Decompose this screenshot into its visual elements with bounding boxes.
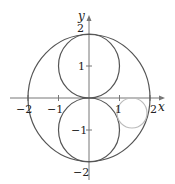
y-tick-label: −2 (73, 166, 89, 179)
x-tick-label: 1 (115, 103, 122, 116)
y-tick-label: −1 (71, 124, 87, 137)
x-tick-label: −2 (16, 103, 32, 116)
diagram-canvas: −2 −1 1 2 2 1 −1 −2 x y (0, 0, 175, 184)
x-tick-label: −1 (47, 103, 63, 116)
diagram-figure: −2 −1 1 2 2 1 −1 −2 x y (0, 0, 175, 184)
y-tick-label: 2 (77, 22, 84, 35)
y-axis-label: y (77, 9, 85, 23)
y-axis-arrow-icon (87, 15, 92, 21)
x-axis-label: x (158, 100, 165, 114)
y-tick-label: 1 (78, 60, 85, 73)
x-tick-label: 2 (150, 103, 157, 116)
